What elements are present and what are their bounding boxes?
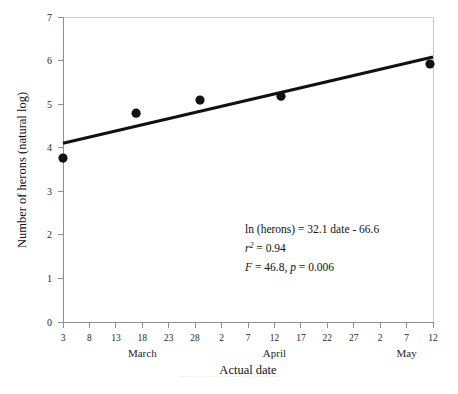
y-tick-label: 6 [47,55,52,66]
x-tick-label: 22 [323,333,333,343]
x-tick-label: 13 [111,333,121,343]
annotation-r-value: = 0.94 [253,242,286,254]
data-point [132,109,141,118]
y-axis-tick-labels: 0 1 2 3 4 5 6 7 [47,12,52,328]
x-tick-label: 23 [164,333,174,343]
x-axis-ticks [63,322,433,328]
month-label-march: March [128,347,157,359]
y-tick-label: 0 [47,317,52,328]
regression-trendline [63,57,433,143]
data-point [425,59,434,68]
y-tick-label: 3 [47,186,52,197]
scatter-plot-canvas: 0 1 2 3 4 5 6 7 [0,0,458,394]
x-axis-month-labels: March April May [128,347,417,359]
annotation-f-and-p: F = 46.8, p = 0.006 [244,261,334,274]
x-tick-label: 17 [296,333,306,343]
y-tick-label: 2 [47,229,52,240]
figure-caption-partial: ...................................... [0,368,458,379]
herons-regression-figure: 0 1 2 3 4 5 6 7 [0,0,458,394]
x-tick-label: 12 [428,333,438,343]
data-point [276,92,285,101]
x-tick-label: 8 [87,333,92,343]
x-tick-label: 2 [219,333,224,343]
x-tick-label: 18 [138,333,148,343]
annotation-r-squared: r2 = 0.94 [245,241,286,255]
x-tick-label: 7 [404,333,409,343]
y-tick-label: 1 [47,273,52,284]
x-tick-label: 28 [190,333,200,343]
month-label-april: April [263,347,286,359]
annotation-p-value: = 0.006 [296,261,334,273]
x-tick-label: 3 [61,333,66,343]
statistics-annotation: ln (herons) = 32.1 date - 66.6 r2 = 0.94… [244,223,379,274]
annotation-f-value: = 46.8, [252,261,290,274]
annotation-equation: ln (herons) = 32.1 date - 66.6 [245,223,379,236]
month-label-may: May [397,347,418,359]
y-axis-title: Number of herons (natural log) [15,92,29,248]
x-tick-label: 2 [378,333,383,343]
x-tick-label: 7 [246,333,251,343]
data-point [58,154,67,163]
x-tick-label: 27 [349,333,359,343]
x-axis-tick-labels: 3 8 13 18 23 28 2 7 12 17 22 27 2 7 12 [61,333,438,343]
y-tick-label: 7 [47,12,52,23]
data-point-series [58,59,434,162]
y-axis-ticks [58,17,63,322]
x-tick-label: 12 [270,333,280,343]
y-tick-label: 5 [47,99,52,110]
data-point [195,96,204,105]
y-tick-label: 4 [47,142,52,153]
